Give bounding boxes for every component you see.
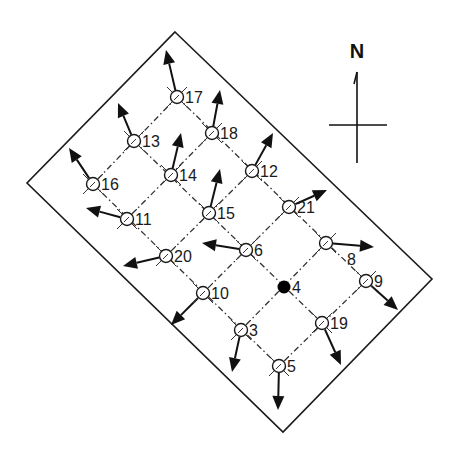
tick-mark — [356, 271, 361, 276]
arrowhead-icon — [211, 169, 223, 184]
arrowhead-icon — [123, 257, 138, 269]
station-node-5: 5 — [269, 356, 296, 376]
tick-mark — [242, 161, 247, 166]
arrowhead-icon — [172, 133, 184, 148]
arrowhead-icon — [69, 148, 82, 163]
station-label: 19 — [330, 315, 348, 332]
vector-arrow-shaft — [169, 64, 175, 91]
arrowhead-icon — [202, 239, 217, 251]
site-boundary — [27, 32, 432, 432]
tick-mark — [312, 313, 317, 318]
station-label: 16 — [101, 176, 119, 193]
boundary-rectangle — [27, 32, 432, 432]
station-label: 4 — [292, 279, 301, 296]
tick-mark — [279, 197, 284, 202]
station-node-21: 21 — [279, 197, 315, 217]
tick-mark — [236, 255, 241, 260]
tick-mark — [231, 335, 236, 340]
tick-mark — [316, 248, 321, 253]
vector-arrows — [69, 50, 398, 410]
station-node-9: 9 — [356, 271, 383, 291]
station-node-17: 17 — [167, 87, 203, 107]
station-node-10: 10 — [193, 283, 229, 303]
arrowhead-icon — [86, 206, 101, 218]
tick-mark — [117, 224, 122, 229]
vector-arrow-shaft — [216, 245, 239, 249]
tick-mark — [83, 189, 88, 194]
station-label: 13 — [142, 133, 160, 150]
station-node-4: 4 — [278, 279, 302, 296]
station-nodes: 171316181411121520216108439195 — [83, 87, 383, 376]
station-label: 20 — [174, 248, 192, 265]
station-label: 14 — [179, 167, 197, 184]
station-label: 6 — [254, 242, 263, 259]
arrowhead-icon — [272, 396, 284, 410]
station-label: 8 — [347, 251, 356, 268]
station-node-13: 13 — [124, 131, 160, 151]
tick-mark — [242, 176, 247, 181]
arrowhead-icon — [229, 357, 241, 372]
station-node-6: 6 — [236, 240, 263, 260]
station-node-8: 8 — [316, 233, 356, 268]
station-node-11: 11 — [117, 209, 152, 229]
tick-mark — [193, 298, 198, 303]
station-label: 18 — [220, 125, 238, 142]
station-label: 21 — [297, 199, 315, 216]
tick-mark — [316, 233, 321, 238]
tick-mark — [279, 212, 284, 217]
tick-mark — [199, 218, 204, 223]
tick-mark — [167, 102, 172, 107]
vector-arrow-shaft — [100, 212, 121, 218]
station-label: 17 — [185, 89, 203, 106]
vector-arrow-shaft — [213, 104, 217, 126]
station-label: 3 — [249, 322, 258, 339]
vector-arrow-shaft — [235, 337, 240, 358]
vector-arrow-shaft — [325, 329, 335, 352]
tick-mark — [269, 371, 274, 376]
north-label: N — [350, 40, 364, 62]
tick-mark — [202, 138, 207, 143]
station-node-19: 19 — [312, 313, 348, 333]
filled-station-icon — [278, 281, 291, 294]
vector-arrow-shaft — [137, 258, 160, 263]
tick-mark — [356, 286, 361, 291]
station-label: 15 — [217, 205, 235, 222]
vector-arrow-shaft — [333, 244, 360, 246]
vector-arrow-shaft — [278, 373, 279, 396]
station-label: 5 — [287, 358, 296, 375]
station-node-14: 14 — [161, 165, 197, 185]
station-label: 12 — [260, 163, 278, 180]
tick-mark — [161, 180, 166, 185]
north-compass: N — [329, 40, 387, 163]
station-vector-diagram: 171316181411121520216108439195 N — [0, 0, 452, 450]
tick-mark — [124, 131, 129, 136]
tick-mark — [331, 233, 336, 238]
tick-mark — [124, 146, 129, 151]
station-node-12: 12 — [242, 161, 278, 181]
tick-mark — [156, 246, 161, 251]
tick-mark — [269, 356, 274, 361]
station-node-15: 15 — [199, 203, 235, 223]
vector-arrow-shaft — [173, 147, 178, 169]
tick-mark — [167, 87, 172, 92]
vector-arrow-shaft — [77, 160, 89, 179]
tick-mark — [236, 240, 241, 245]
station-label: 10 — [211, 285, 229, 302]
arrowhead-icon — [212, 90, 224, 105]
arrowhead-icon — [360, 240, 374, 252]
arrowhead-icon — [163, 50, 175, 65]
station-label: 11 — [135, 211, 152, 228]
vector-arrow-shaft — [211, 183, 217, 207]
station-node-20: 20 — [156, 246, 192, 266]
tick-mark — [156, 261, 161, 266]
station-label: 9 — [374, 273, 383, 290]
